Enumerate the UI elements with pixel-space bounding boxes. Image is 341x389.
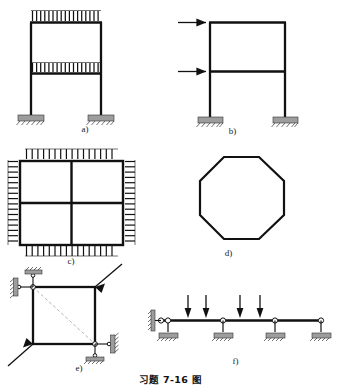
- figure-a: a): [0, 0, 170, 142]
- figure-c-label: c): [0, 256, 156, 266]
- figure-caption: 习题 7-16 图: [0, 372, 341, 386]
- figure-sheet: a): [0, 0, 341, 389]
- figure-b: b): [168, 0, 341, 142]
- point-load-1: [185, 295, 192, 318]
- frame-members-b: [209, 23, 286, 118]
- distributed-load-right-c: [125, 160, 135, 245]
- figure-f-label: f): [140, 356, 331, 366]
- figure-d-label: d): [144, 248, 313, 258]
- figure-b-label: b): [146, 126, 319, 136]
- distributed-load-bottom-c: [25, 246, 118, 256]
- support-left-end-f: [148, 310, 178, 341]
- point-load-3: [237, 295, 244, 318]
- distributed-load-left-c: [8, 160, 18, 245]
- figure-a-label: a): [0, 124, 170, 134]
- distributed-load-upper: [31, 11, 101, 22]
- horizontal-loads-b: [178, 23, 206, 72]
- distributed-load-top-c: [25, 149, 118, 159]
- link-support-bottom-right: [84, 333, 119, 364]
- distributed-load-lower: [31, 63, 101, 73]
- point-load-2: [203, 295, 210, 318]
- octagon-ring-frame: [200, 157, 284, 239]
- diagonal-dashed-line: [33, 287, 95, 344]
- link-support-top-left: [10, 267, 42, 298]
- diagonal-load-bottom-left: [8, 338, 33, 366]
- figure-a-drawing: [0, 0, 170, 142]
- figure-d: d): [172, 142, 341, 270]
- diagonal-load-top-right: [95, 264, 122, 293]
- point-load-4: [257, 295, 264, 318]
- point-loads-f: [185, 295, 264, 318]
- frame-members-c: [20, 161, 123, 245]
- figure-b-drawing: [168, 0, 341, 142]
